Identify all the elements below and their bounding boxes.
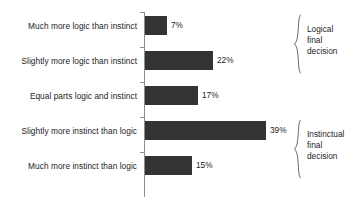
instinctual-group-label-line1: Instinctual [307,129,344,140]
bar-value-much-more-logic: 7% [171,16,183,35]
bar-equal-parts [145,86,198,105]
logical-group-label-line2: final [307,35,322,46]
bar-much-more-instinct [145,156,192,175]
instinctual-group-label-line2: final [307,140,322,151]
category-label-much-more-logic: Much more logic than instinct [0,21,137,31]
bar-value-equal-parts: 17% [202,86,219,105]
category-label-slightly-more-logic: Slightly more logic than instinct [0,56,137,66]
logical-group-label-line1: Logical [307,24,333,35]
instinctual-group-brace [293,119,303,179]
bar-slightly-more-logic [145,51,213,70]
instinctual-group-label-line3: decision [307,151,337,162]
category-label-slightly-more-instinct: Slightly more instinct than logic [0,126,137,136]
axis-tick [140,47,144,48]
category-axis-labels: Much more logic than instinct Slightly m… [0,0,137,207]
logical-group-brace [293,14,303,74]
bar-value-slightly-more-instinct: 39% [270,121,287,140]
bar-much-more-logic [145,16,167,35]
bar-value-slightly-more-logic: 22% [217,51,234,70]
axis-tick [140,152,144,153]
bar-slightly-more-instinct [145,121,266,140]
category-label-much-more-instinct: Much more instinct than logic [0,161,137,171]
bar-chart: Much more logic than instinct Slightly m… [0,0,357,207]
logical-group-label-line3: decision [307,46,337,57]
category-label-equal-parts: Equal parts logic and instinct [0,91,137,101]
axis-tick [140,12,144,13]
axis-tick [140,117,144,118]
axis-tick [140,82,144,83]
bar-value-much-more-instinct: 15% [196,156,213,175]
